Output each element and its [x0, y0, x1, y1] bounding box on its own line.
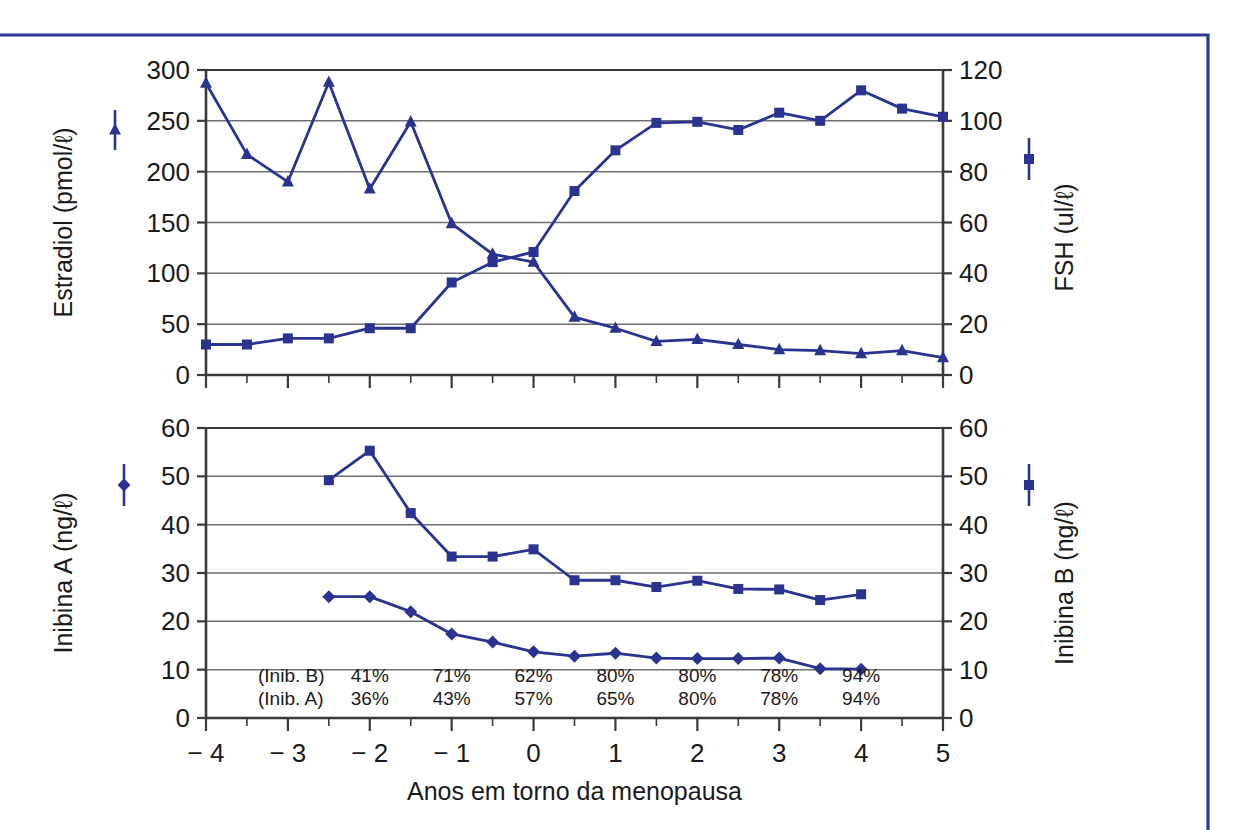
right-axis-tick-label: 0 [959, 360, 973, 390]
data-point-marker [692, 576, 702, 586]
annotation-cell: 71% [433, 665, 471, 686]
x-axis-tick-label: 3 [772, 738, 786, 768]
top-left-axis-title: Estradiol (pmol/ℓ) [49, 127, 77, 317]
figure-root: 050100150200250300020406080100120Estradi… [0, 0, 1244, 830]
right-axis-tick-label: 30 [959, 558, 988, 588]
data-point-marker [897, 104, 907, 114]
data-point-marker [733, 584, 743, 594]
annotation-cell: 65% [596, 688, 634, 709]
annotation-cell: 62% [515, 665, 553, 686]
data-point-marker [447, 277, 457, 287]
annotation-row-label: (Inib. A) [258, 688, 323, 709]
left-axis-tick-label: 200 [147, 157, 190, 187]
annotation-row-label: (Inib. B) [258, 665, 325, 686]
data-point-marker [774, 108, 784, 118]
data-point-marker [242, 340, 252, 350]
annotation-cell: 80% [596, 665, 634, 686]
legend-square-icon [1024, 154, 1034, 164]
left-axis-tick-label: 50 [161, 309, 190, 339]
x-axis-tick-label: − 4 [188, 738, 225, 768]
data-point-marker [651, 118, 661, 128]
left-axis-tick-label: 30 [161, 558, 190, 588]
data-point-marker [774, 584, 784, 594]
left-axis-tick-label: 50 [161, 461, 190, 491]
annotation-cell: 78% [760, 665, 798, 686]
x-axis-tick-label: 1 [608, 738, 622, 768]
x-axis-tick-label: 4 [854, 738, 868, 768]
annotation-cell: 36% [351, 688, 389, 709]
data-point-marker [406, 323, 416, 333]
x-axis-tick-label: − 2 [351, 738, 388, 768]
left-axis-tick-label: 150 [147, 208, 190, 238]
data-point-marker [733, 125, 743, 135]
data-point-marker [201, 340, 211, 350]
right-axis-tick-label: 20 [959, 606, 988, 636]
right-axis-tick-label: 120 [959, 55, 1002, 85]
data-point-marker [324, 333, 334, 343]
x-axis-tick-label: 5 [936, 738, 950, 768]
data-point-marker [610, 145, 620, 155]
left-axis-tick-label: 20 [161, 606, 190, 636]
legend-square-icon [1024, 480, 1034, 490]
annotation-cell: 94% [842, 665, 880, 686]
left-axis-tick-label: 250 [147, 106, 190, 136]
data-point-marker [488, 257, 498, 267]
annotation-cell: 80% [678, 688, 716, 709]
data-point-marker [815, 116, 825, 126]
left-axis-tick-label: 40 [161, 510, 190, 540]
annotation-cell: 57% [515, 688, 553, 709]
data-point-marker [610, 575, 620, 585]
data-point-marker [529, 247, 539, 257]
x-axis-tick-label: 0 [526, 738, 540, 768]
right-axis-tick-label: 80 [959, 157, 988, 187]
data-point-marker [406, 508, 416, 518]
x-axis-title: Anos em torno da menopausa [407, 777, 742, 805]
left-axis-tick-label: 0 [176, 360, 190, 390]
data-point-marker [692, 117, 702, 127]
left-axis-tick-label: 0 [176, 703, 190, 733]
x-axis-tick-label: − 3 [269, 738, 306, 768]
data-point-marker [815, 595, 825, 605]
top-right-axis-title: FSH (ul/ℓ) [1050, 183, 1078, 291]
data-point-marker [938, 112, 948, 122]
data-point-marker [856, 589, 866, 599]
data-point-marker [570, 575, 580, 585]
annotation-cell: 94% [842, 688, 880, 709]
annotation-cell: 41% [351, 665, 389, 686]
right-axis-tick-label: 50 [959, 461, 988, 491]
right-axis-tick-label: 0 [959, 703, 973, 733]
x-axis-tick-label: − 1 [433, 738, 470, 768]
bottom-right-axis-title: Inibina B (ng/ℓ) [1050, 501, 1078, 665]
data-point-marker [529, 544, 539, 554]
left-axis-tick-label: 300 [147, 55, 190, 85]
right-axis-tick-label: 60 [959, 413, 988, 443]
data-point-marker [651, 582, 661, 592]
right-axis-tick-label: 100 [959, 106, 1002, 136]
bottom-left-axis-title: Inibina A (ng/ℓ) [49, 493, 77, 654]
left-axis-tick-label: 60 [161, 413, 190, 443]
annotation-cell: 78% [760, 688, 798, 709]
right-axis-tick-label: 60 [959, 208, 988, 238]
annotation-cell: 80% [678, 665, 716, 686]
data-point-marker [488, 552, 498, 562]
annotation-cell: 43% [433, 688, 471, 709]
right-axis-tick-label: 20 [959, 309, 988, 339]
left-axis-tick-label: 10 [161, 655, 190, 685]
data-point-marker [856, 85, 866, 95]
data-point-marker [324, 475, 334, 485]
left-axis-tick-label: 100 [147, 258, 190, 288]
data-point-marker [365, 323, 375, 333]
data-point-marker [365, 446, 375, 456]
data-point-marker [447, 552, 457, 562]
right-axis-tick-label: 10 [959, 655, 988, 685]
data-point-marker [283, 333, 293, 343]
x-axis-tick-label: 2 [690, 738, 704, 768]
right-axis-tick-label: 40 [959, 258, 988, 288]
chart-svg: 050100150200250300020406080100120Estradi… [0, 0, 1244, 830]
data-point-marker [570, 186, 580, 196]
right-axis-tick-label: 40 [959, 510, 988, 540]
